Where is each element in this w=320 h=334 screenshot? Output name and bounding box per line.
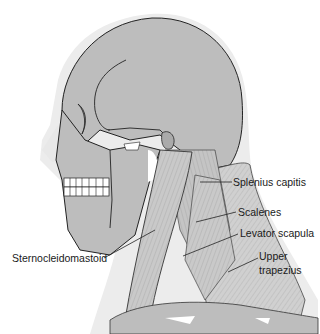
label-sternocleidomastoid: Sternocleidomastoid (12, 252, 107, 265)
label-upper-trapezius-line1: Upper (259, 250, 288, 263)
anatomy-figure: Splenius capitis Scalenes Levator scapul… (0, 0, 320, 334)
label-upper-trapezius-line2: trapezius (259, 264, 302, 277)
label-scalenes: Scalenes (238, 206, 281, 219)
teeth (64, 178, 109, 196)
head-neck-illustration (0, 0, 320, 334)
label-levator-scapula: Levator scapula (240, 227, 314, 240)
label-splenius-capitis: Splenius capitis (233, 176, 306, 189)
